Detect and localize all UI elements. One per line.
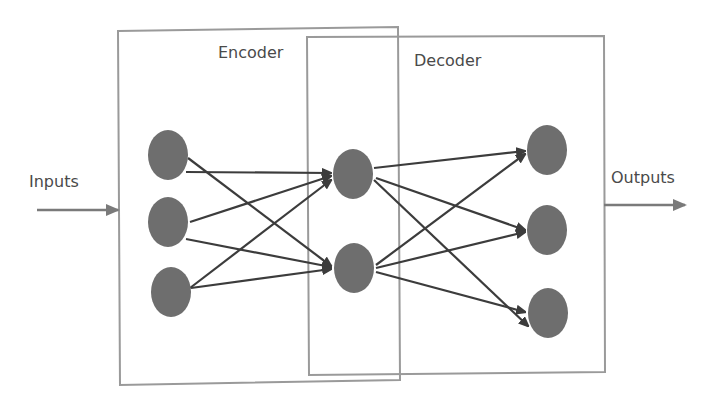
output-node bbox=[528, 288, 568, 338]
input-node bbox=[148, 130, 188, 180]
output-node bbox=[527, 125, 567, 175]
decoder-label: Decoder bbox=[414, 51, 481, 70]
decoder-edges bbox=[374, 151, 528, 326]
autoencoder-diagram bbox=[0, 0, 712, 404]
hidden-node bbox=[334, 243, 374, 293]
inputs-label: Inputs bbox=[29, 172, 79, 191]
input-node bbox=[151, 267, 191, 317]
output-layer bbox=[527, 125, 568, 338]
outputs-label: Outputs bbox=[611, 168, 675, 187]
hidden-node bbox=[333, 149, 373, 199]
hidden-layer bbox=[333, 149, 374, 293]
encoder-label: Encoder bbox=[218, 43, 283, 62]
output-node bbox=[527, 205, 567, 255]
input-node bbox=[148, 197, 188, 247]
input-layer bbox=[148, 130, 191, 317]
